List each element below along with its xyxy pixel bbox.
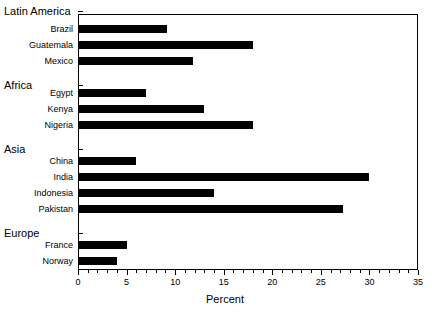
x-tick-minor — [204, 270, 205, 273]
y-tick — [78, 245, 83, 246]
x-tick-minor — [165, 270, 166, 273]
x-tick-minor — [360, 270, 361, 273]
x-tick-label-0: 0 — [75, 277, 80, 287]
y-tick — [78, 45, 83, 46]
x-tick-minor — [301, 270, 302, 273]
x-tick-minor — [117, 270, 118, 273]
y-tick — [78, 233, 83, 234]
group-label-latin-america: Latin America — [4, 5, 71, 17]
x-tick-minor — [156, 270, 157, 273]
bar-egypt — [78, 89, 146, 97]
group-label-africa: Africa — [4, 79, 32, 91]
category-label-egypt: Egypt — [50, 88, 73, 98]
x-tick-major — [272, 270, 273, 275]
category-label-norway: Norway — [42, 256, 73, 266]
x-tick-major — [175, 270, 176, 275]
group-label-europe: Europe — [4, 227, 39, 239]
bar-france — [78, 241, 127, 249]
x-tick-minor — [399, 270, 400, 273]
y-tick — [78, 177, 83, 178]
category-label-mexico: Mexico — [44, 56, 73, 66]
x-tick-minor — [243, 270, 244, 273]
bar-mexico — [78, 57, 193, 65]
x-tick-label-25: 25 — [316, 277, 326, 287]
y-tick — [78, 11, 83, 12]
x-tick-minor — [88, 270, 89, 273]
x-tick-minor — [214, 270, 215, 273]
category-label-france: France — [45, 240, 73, 250]
y-tick — [78, 193, 83, 194]
category-label-brazil: Brazil — [50, 24, 73, 34]
x-tick-minor — [185, 270, 186, 273]
bar-indonesia — [78, 189, 214, 197]
y-tick — [78, 209, 83, 210]
x-tick-minor — [292, 270, 293, 273]
x-tick-minor — [253, 270, 254, 273]
y-tick — [78, 29, 83, 30]
x-tick-minor — [379, 270, 380, 273]
bar-kenya — [78, 105, 204, 113]
x-tick-minor — [340, 270, 341, 273]
x-tick-label-20: 20 — [267, 277, 277, 287]
y-tick — [78, 61, 83, 62]
x-tick-major — [78, 270, 79, 275]
x-tick-minor — [408, 270, 409, 273]
x-tick-major — [224, 270, 225, 275]
x-tick-minor — [389, 270, 390, 273]
x-tick-major — [127, 270, 128, 275]
category-label-china: China — [49, 156, 73, 166]
x-tick-minor — [146, 270, 147, 273]
y-tick — [78, 261, 83, 262]
y-tick — [78, 93, 83, 94]
x-tick-major — [369, 270, 370, 275]
x-tick-minor — [311, 270, 312, 273]
x-tick-major — [418, 270, 419, 275]
x-tick-minor — [282, 270, 283, 273]
x-axis-title-text: Percent — [206, 293, 244, 305]
category-label-guatemala: Guatemala — [29, 40, 73, 50]
y-tick — [78, 125, 83, 126]
bar-china — [78, 157, 136, 165]
x-tick-minor — [263, 270, 264, 273]
x-tick-label-30: 30 — [364, 277, 374, 287]
x-tick-minor — [136, 270, 137, 273]
bar-norway — [78, 257, 117, 265]
bar-chart: Latin AmericaBrazilGuatemalaMexicoAfrica… — [0, 0, 432, 315]
y-tick — [78, 161, 83, 162]
x-tick-minor — [350, 270, 351, 273]
y-tick — [78, 109, 83, 110]
x-tick-major — [321, 270, 322, 275]
bar-india — [78, 173, 369, 181]
x-tick-label-5: 5 — [124, 277, 129, 287]
category-label-pakistan: Pakistan — [38, 204, 73, 214]
bars-layer — [78, 14, 418, 270]
x-tick-minor — [233, 270, 234, 273]
y-tick — [78, 149, 83, 150]
category-label-nigeria: Nigeria — [44, 120, 73, 130]
x-tick-minor — [97, 270, 98, 273]
x-tick-minor — [107, 270, 108, 273]
x-tick-minor — [331, 270, 332, 273]
bar-nigeria — [78, 121, 253, 129]
group-label-asia: Asia — [4, 143, 25, 155]
category-label-kenya: Kenya — [47, 104, 73, 114]
x-tick-label-10: 10 — [170, 277, 180, 287]
y-tick — [78, 85, 83, 86]
x-tick-label-15: 15 — [219, 277, 229, 287]
category-labels-layer: Latin AmericaBrazilGuatemalaMexicoAfrica… — [0, 0, 78, 315]
bar-guatemala — [78, 41, 253, 49]
category-label-india: India — [53, 172, 73, 182]
bar-pakistan — [78, 205, 343, 213]
x-tick-minor — [195, 270, 196, 273]
category-label-indonesia: Indonesia — [34, 188, 73, 198]
bar-brazil — [78, 25, 167, 33]
x-axis-title: Percent — [0, 293, 432, 306]
x-tick-label-35: 35 — [413, 277, 423, 287]
